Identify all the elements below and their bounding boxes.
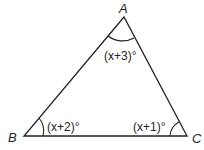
angle-label-b: (x+2)° <box>47 120 80 134</box>
vertex-label-c: C <box>192 131 202 146</box>
triangle-diagram: A B C (x+3)° (x+2)° (x+1)° <box>0 0 204 150</box>
angle-arc-b <box>39 118 44 136</box>
vertex-label-a: A <box>118 1 128 16</box>
triangle-abc <box>24 17 187 136</box>
angle-arc-c <box>170 122 179 136</box>
angle-arc-a <box>108 36 134 41</box>
vertex-label-b: B <box>8 130 17 145</box>
angle-label-c: (x+1)° <box>133 120 166 134</box>
angle-label-a: (x+3)° <box>104 49 137 63</box>
